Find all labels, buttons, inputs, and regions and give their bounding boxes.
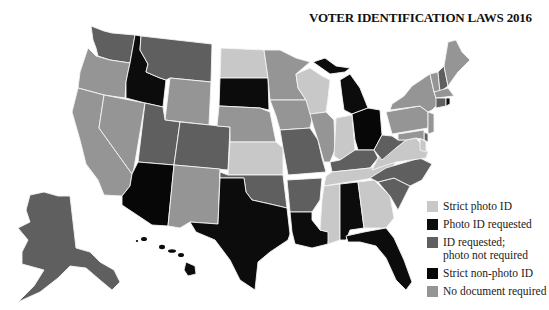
state-ny [390, 74, 438, 112]
state-sd [219, 78, 269, 110]
legend-item-strict-non-photo-id: Strict non-photo ID [427, 267, 546, 280]
legend: Strict photo ID Photo ID requested ID re… [427, 200, 546, 303]
legend-label: Strict photo ID [443, 200, 512, 213]
state-nj [428, 112, 434, 134]
state-fl [346, 228, 412, 290]
state-co [174, 122, 230, 170]
legend-item-no-document-required: No document required [427, 285, 546, 298]
state-de [424, 132, 428, 142]
state-ct [436, 98, 446, 108]
state-mi-upper [313, 58, 350, 74]
legend-item-photo-id-requested: Photo ID requested [427, 218, 546, 231]
state-nd [220, 48, 268, 78]
state-ri [446, 98, 450, 106]
legend-item-strict-photo-id: Strict photo ID [427, 200, 546, 213]
legend-label: Photo ID requested [443, 218, 532, 231]
legend-swatch [427, 201, 438, 212]
state-hi [136, 237, 196, 276]
state-me [444, 40, 470, 86]
legend-label-line2: photo not required [443, 249, 528, 262]
legend-swatch [427, 268, 438, 279]
legend-label: No document required [443, 285, 546, 298]
legend-swatch [427, 219, 438, 230]
state-pa [386, 106, 428, 134]
legend-swatch [427, 237, 438, 248]
state-ak [18, 192, 120, 302]
state-mi [340, 74, 368, 114]
state-nm [168, 165, 220, 228]
legend-swatch [427, 286, 438, 297]
state-ar [287, 178, 322, 212]
state-ks [228, 142, 283, 175]
legend-label: ID requested; [443, 236, 528, 249]
state-wy [165, 78, 211, 125]
legend-item-id-requested-photo-not-required: ID requested; photo not required [427, 236, 546, 262]
legend-label: Strict non-photo ID [443, 267, 533, 280]
